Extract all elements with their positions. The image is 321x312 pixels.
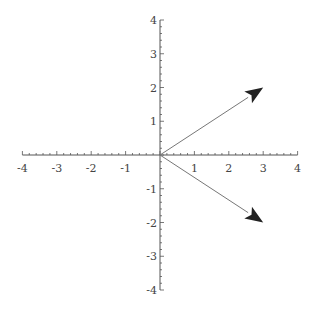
y-tick-label: -1 — [146, 183, 157, 196]
x-tick-label: 1 — [191, 162, 198, 175]
y-tick-label: 2 — [150, 82, 157, 95]
vector-line — [160, 97, 248, 155]
arrowhead-icon — [244, 88, 263, 104]
y-tick-label: -2 — [146, 217, 157, 230]
y-tick-label: 1 — [150, 115, 157, 128]
y-tick-label: -4 — [146, 284, 157, 297]
x-tick-label: -1 — [120, 162, 131, 175]
y-tick-label: 3 — [150, 48, 157, 61]
x-tick-label: -2 — [86, 162, 97, 175]
y-tick-label: -3 — [146, 250, 157, 263]
vector-line — [160, 155, 248, 213]
x-tick-label: 4 — [294, 162, 301, 175]
x-tick-label: -4 — [17, 162, 28, 175]
x-tick-label: 3 — [260, 162, 267, 175]
x-tick-label: -3 — [51, 162, 62, 175]
x-tick-label: 2 — [225, 162, 232, 175]
arrowhead-icon — [244, 207, 263, 223]
vector-plot: -4-3-2-11234-4-3-2-11234 — [0, 0, 321, 312]
y-tick-label: 4 — [150, 14, 157, 27]
